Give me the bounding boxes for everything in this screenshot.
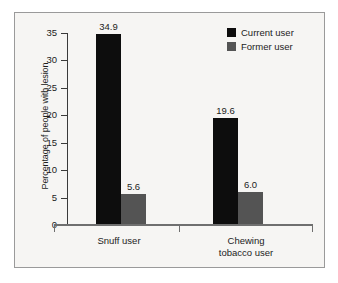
bar-chewing-former[interactable]: 6.0	[238, 192, 263, 225]
x-tick-left	[54, 226, 55, 232]
bar-value-chewing-current: 19.6	[216, 105, 235, 116]
x-axis-line	[54, 224, 313, 226]
x-category-chewing-line2: tobacco user	[181, 247, 311, 259]
x-tick-middle	[179, 226, 180, 232]
legend-item-current-user[interactable]: Current user	[227, 27, 294, 38]
x-category-snuff-line1: Snuff user	[54, 235, 184, 247]
legend-swatch-former-user	[227, 42, 236, 51]
bar-snuff-former[interactable]: 5.6	[121, 194, 146, 225]
bar-chewing-current[interactable]: 19.6	[213, 118, 238, 226]
bar-rect-snuff-former	[121, 194, 146, 225]
x-tick-right	[312, 226, 313, 232]
bar-snuff-current[interactable]: 34.9	[96, 34, 121, 226]
bar-rect-chewing-former	[238, 192, 263, 225]
bar-value-chewing-former: 6.0	[244, 179, 257, 190]
bar-rect-chewing-current	[213, 118, 238, 226]
legend-label-current-user: Current user	[241, 27, 294, 38]
x-category-label-snuff: Snuff user	[54, 235, 184, 247]
chart-legend: Current user Former user	[227, 27, 294, 55]
chart-figure: Percentage of people with lesion 35 30 2…	[14, 12, 325, 268]
bar-rect-snuff-current	[96, 34, 121, 226]
x-category-label-chewing: Chewing tobacco user	[181, 235, 311, 258]
legend-item-former-user[interactable]: Former user	[227, 41, 294, 52]
bar-value-snuff-current: 34.9	[99, 21, 118, 32]
x-category-chewing-line1: Chewing	[181, 235, 311, 247]
legend-swatch-current-user	[227, 28, 236, 37]
legend-label-former-user: Former user	[241, 41, 293, 52]
bar-value-snuff-former: 5.6	[127, 181, 140, 192]
